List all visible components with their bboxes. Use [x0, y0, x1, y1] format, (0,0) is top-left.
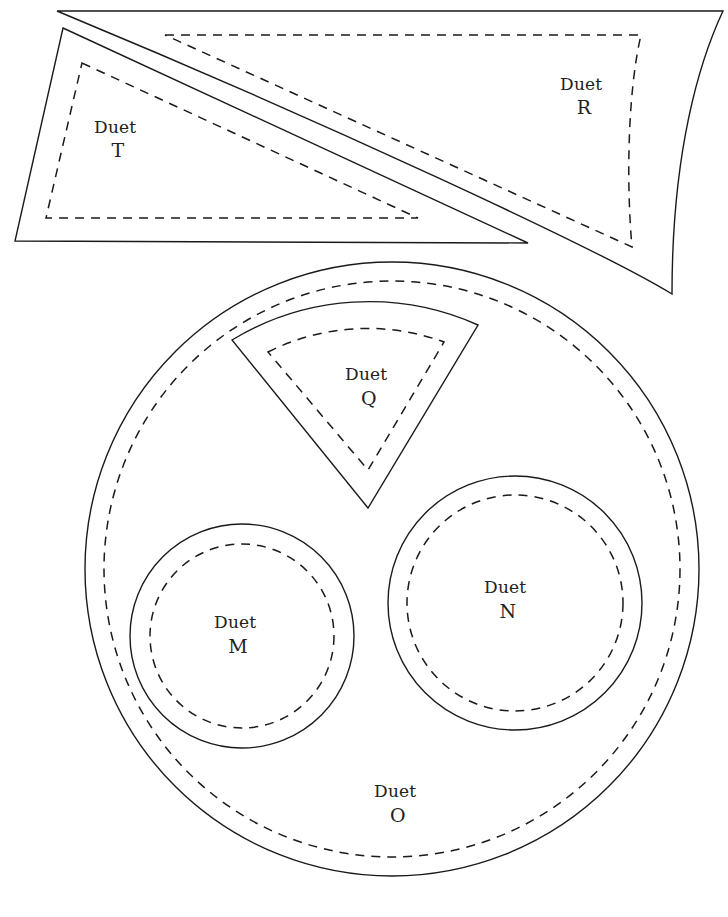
piece-q-outline: [232, 302, 478, 508]
piece-m-label: Duet M: [214, 612, 262, 657]
piece-m-label-word: Duet: [214, 612, 256, 632]
piece-t-outline: [15, 28, 528, 243]
piece-q-label-word: Duet: [345, 364, 387, 384]
piece-t-label-letter: T: [112, 139, 125, 161]
piece-q-label: Duet Q: [345, 364, 393, 409]
piece-duet-q[interactable]: Duet Q: [232, 302, 478, 508]
piece-q-seam-line: [268, 328, 444, 470]
piece-duet-r[interactable]: Duet R: [57, 11, 723, 294]
piece-duet-t[interactable]: Duet T: [15, 28, 528, 243]
piece-m-label-letter: M: [228, 635, 248, 657]
piece-t-seam-line: [46, 63, 418, 218]
piece-duet-n[interactable]: Duet N: [388, 476, 642, 730]
piece-o-label: Duet O: [374, 781, 422, 826]
piece-r-label: Duet R: [560, 74, 608, 118]
piece-t-label-word: Duet: [94, 117, 136, 137]
piece-duet-m[interactable]: Duet M: [130, 524, 354, 748]
piece-t-label: Duet T: [94, 117, 142, 161]
duet-pattern-diagram: Duet T Duet R Duet O: [0, 0, 728, 917]
piece-r-label-word: Duet: [560, 74, 602, 94]
piece-r-label-letter: R: [577, 96, 592, 118]
piece-n-label-word: Duet: [484, 577, 526, 597]
piece-r-outline: [57, 11, 723, 294]
diagram-canvas: Duet T Duet R Duet O: [0, 0, 728, 917]
piece-q-label-letter: Q: [361, 387, 377, 409]
piece-r-seam-line: [165, 35, 641, 247]
piece-n-label-letter: N: [500, 600, 517, 622]
piece-o-label-word: Duet: [374, 781, 416, 801]
piece-n-label: Duet N: [484, 577, 532, 622]
piece-o-label-letter: O: [390, 804, 406, 826]
